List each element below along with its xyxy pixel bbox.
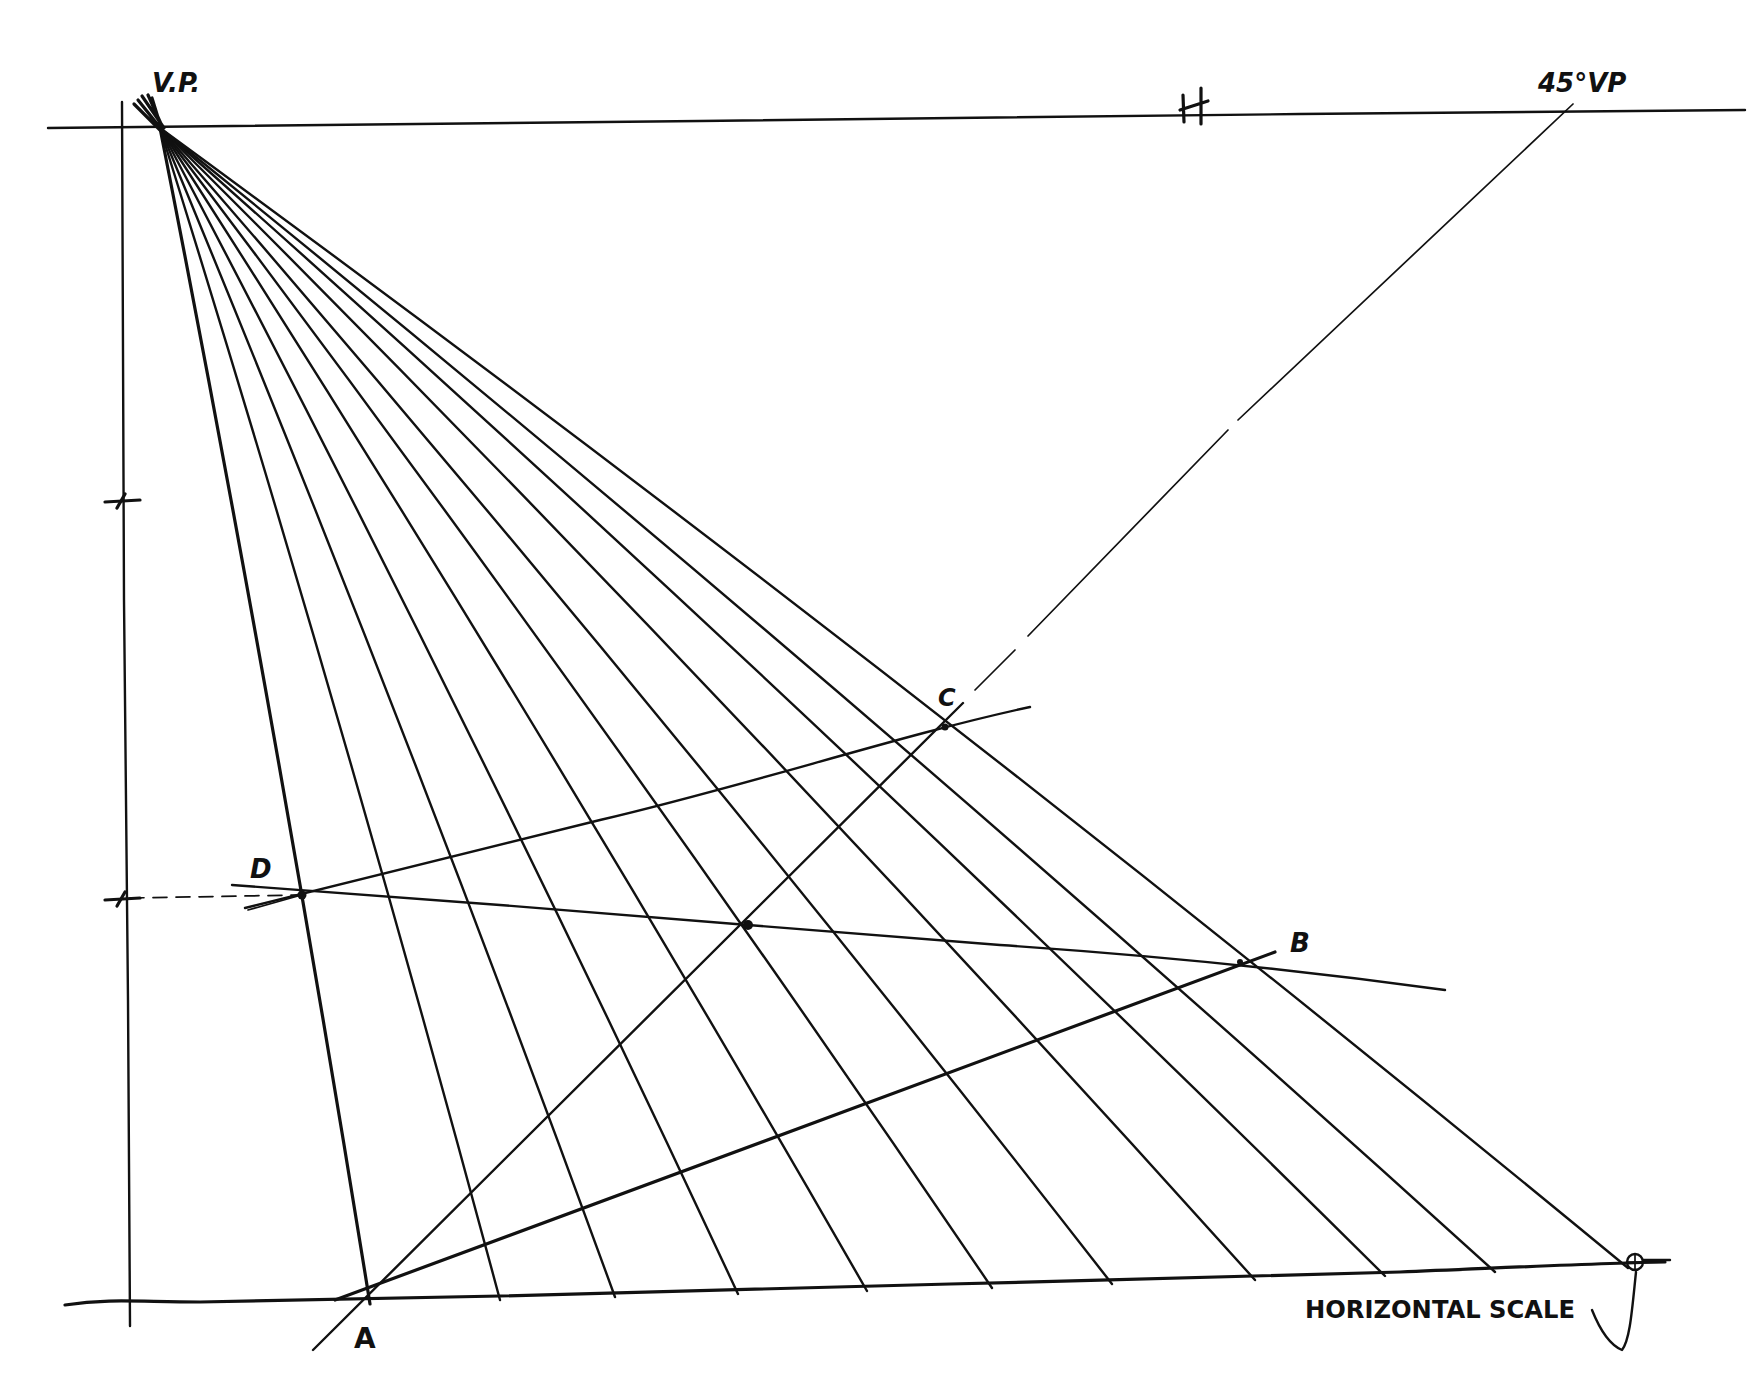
radiating-line — [160, 128, 615, 1297]
label-d: D — [250, 854, 272, 884]
label-b: B — [1290, 928, 1310, 958]
radiating-line — [160, 128, 1385, 1276]
vp45-label: 45°VP — [1537, 68, 1626, 98]
vp-label: V.P. — [152, 68, 200, 98]
radiating-line — [160, 128, 867, 1291]
horizon-line — [48, 110, 1745, 128]
line-a-b — [335, 952, 1275, 1300]
radiating-lines — [160, 128, 1628, 1304]
vanishing-point-icon — [134, 95, 164, 130]
radiating-line — [160, 128, 1495, 1272]
label-a: A — [354, 1322, 376, 1355]
radiating-line — [160, 128, 992, 1288]
point-c-dot — [942, 724, 949, 731]
point-b-dot — [1237, 959, 1243, 965]
radiating-line — [160, 128, 738, 1294]
horizon-marker-icon — [1180, 88, 1208, 124]
dashed-projection-line — [130, 895, 300, 898]
vertical-measure-line — [122, 102, 130, 1326]
radiating-line — [160, 128, 500, 1300]
label-c: C — [938, 684, 956, 712]
radiating-line — [160, 128, 1255, 1280]
point-center-dot — [743, 920, 753, 930]
point-d-dot — [298, 891, 307, 900]
radiating-line — [160, 128, 1112, 1284]
perspective-diagram: V.P. 45°VP A B C D HORIZONTAL SCALE — [0, 0, 1753, 1398]
radiating-line — [160, 128, 370, 1304]
vertical-tick-marks — [105, 494, 140, 906]
radiating-line — [160, 128, 1628, 1268]
check-mark-icon — [1592, 1272, 1636, 1350]
horizontal-scale-label: HORIZONTAL SCALE — [1305, 1296, 1575, 1324]
